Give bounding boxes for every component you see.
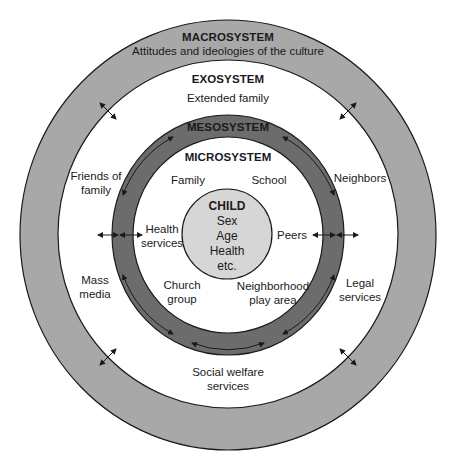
mesosystem-title: MESOSYSTEM	[187, 120, 269, 134]
exo-item-legal-services: Legalservices	[339, 276, 381, 304]
child-attribute-sex: Sex	[208, 214, 245, 229]
child-label: CHILD Sex Age Health etc.	[208, 199, 245, 274]
exo-item-mass-media: Massmedia	[79, 273, 110, 301]
microsystem-title: MICROSYSTEM	[185, 150, 272, 164]
exo-item-friends-of-family: Friends offamily	[70, 169, 121, 197]
child-title: CHILD	[208, 199, 245, 214]
child-attribute-etc: etc.	[208, 259, 245, 274]
macrosystem-subtitle: Attitudes and ideologies of the culture	[132, 44, 324, 58]
micro-item-family: Family	[171, 173, 205, 187]
micro-item-church-group: Churchgroup	[163, 278, 200, 306]
micro-item-peers: Peers	[277, 228, 307, 242]
exo-item-neighbors: Neighbors	[334, 171, 386, 185]
micro-item-neighborhood-play-area: Neighborhoodplay area	[237, 279, 309, 307]
exo-item-extended-family: Extended family	[187, 91, 269, 105]
child-attribute-health: Health	[208, 244, 245, 259]
micro-item-school: School	[251, 173, 286, 187]
exo-item-social-welfare-services: Social welfareservices	[192, 365, 264, 393]
micro-item-health-services: Healthservices	[141, 222, 183, 250]
exosystem-title: EXOSYSTEM	[192, 72, 264, 86]
macrosystem-title: MACROSYSTEM	[182, 30, 274, 44]
child-attribute-age: Age	[208, 229, 245, 244]
